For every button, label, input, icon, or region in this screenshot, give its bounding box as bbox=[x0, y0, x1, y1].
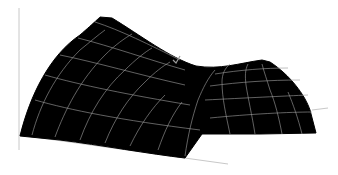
y-axis-right-line bbox=[312, 108, 328, 110]
surface-plot bbox=[0, 0, 338, 175]
saddle-surface bbox=[20, 17, 316, 158]
